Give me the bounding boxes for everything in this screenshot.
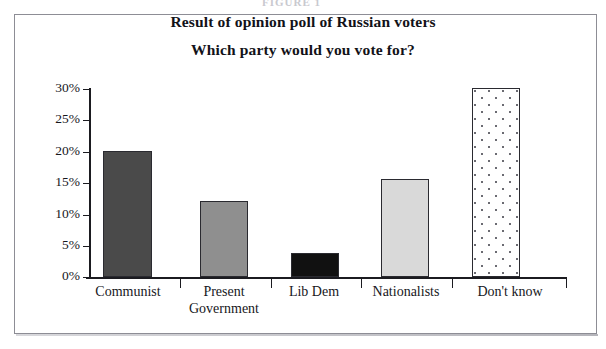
bars-layer [0,0,606,277]
x-axis-label-lib-dem-line1: Lib Dem [289,284,339,299]
x-axis-label-present-government: Present Government [176,283,272,318]
x-axis-label-dont-know-line1: Don't know [477,284,542,299]
x-axis-label-communist-line1: Communist [95,284,160,299]
x-axis-label-nationalists-line1: Nationalists [373,284,440,299]
bar-chart-plot: 30% 25% 20% 15% 10% 5% 0% Communist Pres… [0,0,606,349]
x-axis-label-nationalists: Nationalists [357,283,455,300]
y-tick-0 [83,277,90,278]
x-axis-line [86,277,567,279]
x-axis-label-present-government-line2: Government [189,301,259,316]
x-axis-label-present-government-line1: Present [203,284,244,299]
x-axis-label-dont-know: Don't know [452,283,568,300]
bar-communist[interactable] [103,151,152,277]
x-axis-label-lib-dem: Lib Dem [268,283,360,300]
x-axis-label-communist: Communist [80,283,176,300]
bar-nationalists[interactable] [381,179,429,277]
y-label-wrap-0: 0% [32,277,80,278]
bar-dont-know[interactable] [472,88,520,277]
bar-lib-dem[interactable] [291,253,339,277]
bar-present-government[interactable] [200,201,248,277]
